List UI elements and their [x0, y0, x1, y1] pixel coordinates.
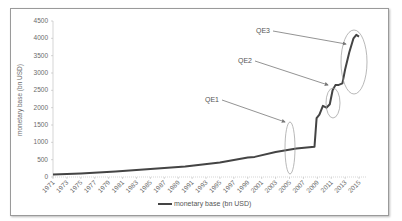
y-tick-label: 2500 [34, 86, 49, 93]
x-tick-label: 1977 [82, 178, 97, 193]
x-tick-label: 1983 [124, 178, 139, 193]
series-line [53, 35, 359, 175]
y-tick-label: 4500 [34, 17, 49, 24]
y-tick-label: 0 [44, 173, 48, 180]
line-chart: 050010001500200025003000350040004500 197… [0, 0, 402, 221]
y-tick-label: 1500 [34, 121, 49, 128]
x-tick-label: 1997 [221, 178, 236, 193]
qe2-arrow [255, 61, 328, 85]
y-tick-label: 3000 [34, 69, 49, 76]
legend-line-swatch [158, 203, 172, 205]
y-tick-label: 1000 [34, 138, 49, 145]
x-tick-label: 2007 [291, 178, 306, 193]
qe3-arrow [273, 31, 346, 44]
y-axis: 050010001500200025003000350040004500 [34, 17, 53, 180]
x-tick-label: 2003 [263, 178, 278, 193]
legend: monetary base (bn USD) [158, 200, 251, 207]
data-series [53, 35, 359, 175]
legend-label: monetary base (bn USD) [174, 200, 251, 207]
x-tick-label: 2009 [305, 178, 320, 193]
x-tick-label: 1985 [138, 178, 153, 193]
x-tick-label: 2015 [347, 178, 362, 193]
y-tick-label: 2000 [34, 104, 49, 111]
x-tick-label: 2005 [277, 178, 292, 193]
x-tick-label: 1993 [194, 178, 209, 193]
x-tick-label: 1989 [166, 178, 181, 193]
x-tick-label: 2001 [249, 178, 264, 193]
x-tick-label: 1979 [96, 178, 111, 193]
x-tick-label: 1971 [41, 178, 56, 193]
x-tick-label: 2011 [319, 178, 334, 193]
y-tick-label: 500 [37, 156, 48, 163]
qe1-arrow [222, 100, 285, 122]
annotations: QE1QE2QE3 [205, 27, 367, 174]
qe1-ellipse [285, 122, 295, 174]
x-tick-label: 1975 [68, 178, 83, 193]
x-tick-label: 1995 [207, 178, 222, 193]
y-tick-label: 4000 [34, 34, 49, 41]
qe2-label: QE2 [238, 57, 252, 65]
x-tick-label: 1991 [180, 178, 195, 193]
y-tick-label: 3500 [34, 52, 49, 59]
x-axis: 1971197319751977197919811983198519871989… [41, 177, 366, 194]
x-tick-label: 1973 [54, 178, 69, 193]
y-axis-label: monetary base (bn USD) [16, 64, 24, 136]
x-tick-label: 2013 [333, 178, 348, 193]
qe3-label: QE3 [256, 27, 270, 35]
x-tick-label: 1987 [152, 178, 167, 193]
qe1-label: QE1 [205, 96, 219, 104]
x-tick-label: 1999 [235, 178, 250, 193]
x-tick-label: 1981 [110, 178, 125, 193]
